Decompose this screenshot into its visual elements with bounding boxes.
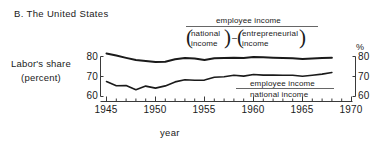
axis-bracket-right xyxy=(353,57,356,97)
series-line-employee-over-national-minus-entrepreneurial xyxy=(107,54,332,63)
series-line-employee-over-national xyxy=(107,73,332,90)
chart-figure xyxy=(0,0,381,144)
axis-bracket-left xyxy=(101,57,104,97)
x-axis-ticks xyxy=(107,97,352,102)
